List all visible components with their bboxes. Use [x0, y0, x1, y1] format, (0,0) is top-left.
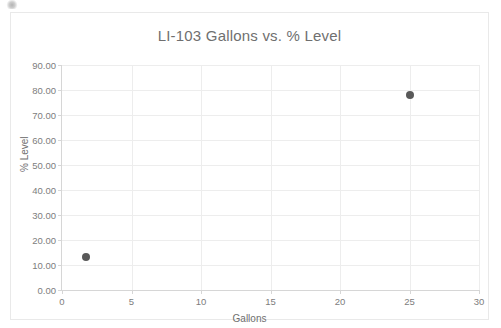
x-axis-tick-label: 0	[59, 296, 64, 307]
scan-artifact	[6, 0, 18, 9]
y-axis-tick-mark	[58, 265, 62, 266]
chart-title: LI-103 Gallons vs. % Level	[11, 27, 488, 44]
x-axis-tick-mark	[132, 290, 133, 294]
chart-container: LI-103 Gallons vs. % Level 0.0010.0020.0…	[10, 12, 489, 320]
x-axis-tick-label: 15	[265, 296, 276, 307]
x-axis-tick-label: 25	[404, 296, 415, 307]
y-axis-tick-label: 40.00	[32, 185, 56, 196]
x-axis-tick-mark	[271, 290, 272, 294]
x-axis-tick-mark	[201, 290, 202, 294]
y-axis-tick-label: 70.00	[32, 110, 56, 121]
x-axis-tick-mark	[340, 290, 341, 294]
y-axis-tick-label: 60.00	[32, 135, 56, 146]
x-axis-tick-label: 5	[129, 296, 134, 307]
y-axis-tick-mark	[58, 190, 62, 191]
y-axis-tick-label: 80.00	[32, 85, 56, 96]
gridline-vertical	[132, 65, 133, 290]
x-axis-tick-label: 20	[335, 296, 346, 307]
y-axis-tick-label: 50.00	[32, 160, 56, 171]
y-axis-tick-mark	[58, 240, 62, 241]
y-axis-tick-label: 0.00	[38, 285, 57, 296]
gridline-vertical	[340, 65, 341, 290]
y-axis-tick-mark	[58, 140, 62, 141]
x-axis-tick-mark	[62, 290, 63, 294]
x-axis-tick-label: 10	[196, 296, 207, 307]
plot-area: 0.0010.0020.0030.0040.0050.0060.0070.008…	[61, 65, 479, 291]
gridline-vertical	[201, 65, 202, 290]
y-axis-tick-label: 20.00	[32, 235, 56, 246]
y-axis-tick-mark	[58, 90, 62, 91]
x-axis-tick-mark	[479, 290, 480, 294]
y-axis-tick-mark	[58, 65, 62, 66]
x-axis-tick-mark	[410, 290, 411, 294]
gridline-vertical	[271, 65, 272, 290]
data-point[interactable]	[406, 91, 414, 99]
data-point[interactable]	[82, 253, 90, 261]
y-axis-tick-mark	[58, 165, 62, 166]
x-axis-title: Gallons	[11, 313, 488, 324]
y-axis-tick-label: 10.00	[32, 260, 56, 271]
gridline-vertical	[479, 65, 480, 290]
y-axis-tick-label: 30.00	[32, 210, 56, 221]
x-axis-tick-label: 30	[474, 296, 485, 307]
y-axis-title: % Level	[19, 158, 30, 172]
y-axis-tick-mark	[58, 115, 62, 116]
y-axis-tick-label: 90.00	[32, 60, 56, 71]
y-axis-tick-mark	[58, 215, 62, 216]
